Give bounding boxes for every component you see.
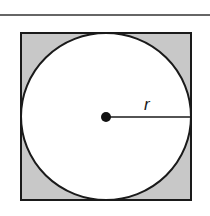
center-point [101,112,111,122]
inscribed-circle-diagram: r [0,0,210,216]
